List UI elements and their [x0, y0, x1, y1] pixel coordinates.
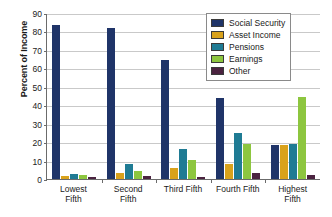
- bar-chart: Percent of Income 0102030405060708090 Lo…: [0, 0, 332, 217]
- legend-item-label: Other: [229, 66, 250, 76]
- bar: [298, 97, 306, 179]
- x-axis-label: LowestFifth: [46, 184, 101, 204]
- bar: [125, 164, 133, 179]
- y-axis-tick-mark: [44, 180, 47, 181]
- bar: [234, 133, 242, 179]
- legend-swatch-icon: [211, 31, 224, 39]
- bar: [243, 144, 251, 179]
- bar: [70, 174, 78, 179]
- x-axis-label: HighestFifth: [265, 184, 320, 204]
- x-axis-label-line: Lowest: [46, 184, 101, 194]
- bar: [252, 173, 260, 179]
- bar: [170, 168, 178, 179]
- bar: [280, 145, 288, 179]
- bar: [61, 176, 69, 180]
- x-axis-label-line: Fifth: [46, 194, 101, 204]
- bar: [161, 60, 169, 179]
- x-axis-label-line: Second: [101, 184, 156, 194]
- x-axis-label-line: Fifth: [101, 194, 156, 204]
- legend-item-label: Earnings: [229, 54, 263, 64]
- x-axis-label: Third Fifth: [156, 184, 211, 204]
- legend-swatch-icon: [211, 19, 224, 27]
- legend-item[interactable]: Asset Income: [211, 29, 285, 41]
- bar-group: [102, 14, 157, 179]
- bar: [289, 144, 297, 179]
- bar: [79, 175, 87, 179]
- bar: [188, 160, 196, 179]
- x-axis-label: SecondFifth: [101, 184, 156, 204]
- bar: [116, 173, 124, 179]
- bar: [271, 145, 279, 179]
- x-axis-label-line: Fifth: [265, 194, 320, 204]
- bar: [216, 98, 224, 179]
- bar: [107, 28, 115, 179]
- y-axis-title: Percent of Income: [19, 0, 29, 119]
- x-axis-label-line: Highest: [265, 184, 320, 194]
- bar: [134, 171, 142, 179]
- gridline: 0: [47, 180, 320, 181]
- bar: [52, 25, 60, 179]
- legend-item-label: Asset Income: [229, 30, 281, 40]
- legend: Social SecurityAsset IncomePensionsEarni…: [206, 13, 291, 81]
- legend-item[interactable]: Earnings: [211, 53, 285, 65]
- legend-item[interactable]: Other: [211, 65, 285, 77]
- bar-group: [156, 14, 211, 179]
- x-axis-tick-mark: [102, 179, 103, 183]
- x-axis-tick-mark: [211, 179, 212, 183]
- bar: [197, 177, 205, 179]
- legend-swatch-icon: [211, 55, 224, 63]
- bar: [179, 149, 187, 179]
- legend-swatch-icon: [211, 67, 224, 75]
- bar: [225, 164, 233, 179]
- x-axis-tick-mark: [265, 179, 266, 183]
- legend-item-label: Social Security: [229, 18, 285, 28]
- bar-group: [47, 14, 102, 179]
- x-axis-label: Fourth Fifth: [210, 184, 265, 204]
- bar: [88, 177, 96, 179]
- legend-item-label: Pensions: [229, 42, 264, 52]
- legend-item[interactable]: Pensions: [211, 41, 285, 53]
- bar: [307, 175, 315, 179]
- x-axis-tick-mark: [156, 179, 157, 183]
- x-axis-labels: LowestFifthSecondFifthThird FifthFourth …: [46, 184, 320, 204]
- x-axis-label-line: Fourth Fifth: [210, 184, 265, 194]
- legend-swatch-icon: [211, 43, 224, 51]
- x-axis-label-line: Third Fifth: [156, 184, 211, 194]
- bar: [143, 176, 151, 180]
- legend-item[interactable]: Social Security: [211, 17, 285, 29]
